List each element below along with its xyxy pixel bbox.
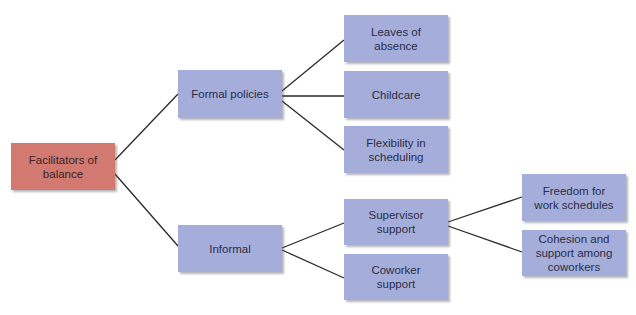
node-informal: Informal	[178, 225, 282, 272]
node-freedom-for-work-schedules: Freedom for work schedules	[522, 174, 626, 221]
edge-supervisor-freedom	[448, 197, 522, 222]
node-cohesion-and-support: Cohesion and support among coworkers	[522, 230, 626, 276]
node-supervisor-support: Supervisor support	[344, 199, 448, 245]
node-label: Freedom for work schedules	[530, 184, 618, 212]
node-label: Informal	[209, 242, 251, 256]
node-label: Cohesion and support among coworkers	[528, 232, 620, 274]
edge-supervisor-cohesion	[448, 226, 522, 252]
node-label: Flexibility in scheduling	[360, 136, 432, 164]
node-label: Facilitators of balance	[15, 153, 111, 181]
edge-informal-coworker	[282, 250, 344, 278]
node-formal-policies: Formal policies	[178, 70, 282, 118]
node-childcare: Childcare	[344, 71, 448, 118]
node-label: Formal policies	[191, 87, 268, 101]
edge-formal-flexibility	[282, 101, 344, 150]
node-coworker-support: Coworker support	[344, 254, 448, 300]
node-label: Coworker support	[366, 263, 426, 291]
node-label: Childcare	[372, 88, 421, 102]
edge-root-formal	[115, 94, 178, 160]
edge-informal-supervisor	[282, 223, 344, 248]
node-label: Supervisor support	[364, 208, 428, 236]
edge-root-informal	[115, 174, 178, 246]
node-facilitators-of-balance: Facilitators of balance	[11, 143, 115, 190]
node-leaves-of-absence: Leaves of absence	[344, 15, 448, 62]
node-flexibility-in-scheduling: Flexibility in scheduling	[344, 126, 448, 173]
node-label: Leaves of absence	[366, 25, 426, 53]
edge-formal-leaves	[282, 40, 344, 91]
